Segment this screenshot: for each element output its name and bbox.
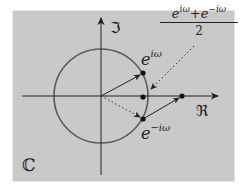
- complex-plane-label: ℂ: [22, 157, 36, 174]
- point-midpoint-cos: [140, 94, 145, 99]
- fraction-term-a-base: e: [172, 6, 180, 21]
- point-sum: [179, 93, 184, 98]
- cosine-fraction-label: eiω+e−iω 2: [160, 6, 238, 38]
- real-axis-label: ℜ: [196, 104, 208, 119]
- point-e-pos: [140, 70, 145, 75]
- fraction-term-b-exp: −iω: [208, 4, 226, 14]
- label-e-neg-exp: −iω: [150, 122, 170, 133]
- vector-e-pos: [101, 75, 140, 96]
- point-e-neg: [140, 116, 145, 121]
- fraction-numerator: eiω+e−iω: [160, 6, 238, 23]
- label-e-pos: eiω: [141, 52, 162, 68]
- fraction-plus: +: [190, 6, 201, 21]
- label-e-neg: e−iω: [141, 126, 170, 142]
- imaginary-axis-label: ℑ: [110, 21, 120, 36]
- label-e-pos-exp: iω: [150, 48, 161, 59]
- fraction-term-a-exp: iω: [180, 4, 190, 14]
- dotted-vector-e-neg: [101, 96, 140, 117]
- fraction-denominator: 2: [160, 24, 238, 38]
